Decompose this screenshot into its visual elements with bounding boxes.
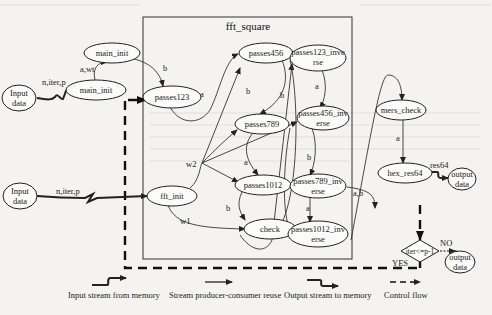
node-hex-res64: hex_res64 bbox=[378, 163, 432, 183]
svg-text:passes789: passes789 bbox=[245, 119, 279, 129]
stream-flow-diagram: fft_square n,iter,p a,wt b a b a b w2 w1… bbox=[0, 0, 492, 315]
node-fft-init: fft_init bbox=[147, 186, 197, 206]
node-passes789-inverse: passes789_inv erse bbox=[290, 174, 346, 198]
svg-text:data: data bbox=[453, 262, 467, 272]
edge-passes1012-check bbox=[239, 192, 245, 220]
svg-text:Input stream from memory: Input stream from memory bbox=[68, 290, 161, 300]
edge-main-init bbox=[94, 62, 107, 80]
node-main-init-low: main_init bbox=[66, 80, 126, 100]
legend-item-input-stream: Input stream from memory bbox=[68, 278, 161, 300]
svg-text:data: data bbox=[12, 98, 26, 108]
node-passes1012: passes1012 bbox=[235, 175, 291, 195]
edge-label: b bbox=[226, 203, 230, 213]
svg-text:main_init: main_init bbox=[80, 85, 113, 95]
svg-text:passes456: passes456 bbox=[249, 48, 283, 58]
edge-label-yes: YES bbox=[392, 258, 408, 268]
edge-label: a bbox=[396, 133, 400, 143]
edge-w2-passes789 bbox=[202, 130, 237, 163]
svg-text:Output stream to memory: Output stream to memory bbox=[284, 290, 372, 300]
svg-text:passes1012: passes1012 bbox=[244, 180, 283, 190]
svg-text:data: data bbox=[13, 196, 27, 206]
node-output-data-2: output data bbox=[445, 251, 475, 273]
edge-label: res64 bbox=[430, 160, 449, 170]
edge-label: a bbox=[306, 203, 310, 213]
edge-label-no: NO bbox=[440, 238, 452, 248]
edge-main-init-passes123 bbox=[130, 58, 163, 86]
svg-text:passes1012_inv: passes1012_inv bbox=[291, 224, 346, 234]
edge-label: a,wt bbox=[80, 64, 95, 74]
svg-text:erse: erse bbox=[311, 186, 325, 196]
node-passes456-inverse: passes456_inv erse bbox=[297, 106, 349, 130]
svg-text:erse: erse bbox=[311, 234, 325, 244]
edge-passes456-passes789 bbox=[260, 60, 286, 114]
output-stream-icon bbox=[307, 280, 338, 286]
svg-text:Input: Input bbox=[10, 88, 29, 98]
svg-text:main_init: main_init bbox=[96, 48, 129, 58]
node-passes789: passes789 bbox=[235, 114, 289, 134]
edge-w2-passes1012 bbox=[202, 163, 238, 182]
svg-text:erse: erse bbox=[316, 118, 330, 128]
svg-text:fft_init: fft_init bbox=[160, 191, 184, 201]
edge-to-mers-check bbox=[351, 75, 402, 240]
node-output-data-1: output data bbox=[448, 168, 476, 190]
node-mers-check: mers_check bbox=[376, 100, 426, 120]
svg-text:Control flow: Control flow bbox=[384, 290, 429, 300]
node-passes123: passes123 bbox=[143, 86, 201, 108]
svg-text:check: check bbox=[260, 224, 281, 234]
edge-label: a bbox=[244, 157, 248, 167]
svg-text:mers_check: mers_check bbox=[381, 105, 422, 115]
edge-label: n,iter,p bbox=[56, 186, 80, 196]
edge-label: n,iter,p bbox=[42, 77, 66, 87]
legend-item-stream-reuse: Stream producer-consumer reuse bbox=[169, 282, 281, 300]
svg-text:Input: Input bbox=[11, 186, 30, 196]
svg-text:passes789_inv: passes789_inv bbox=[293, 176, 343, 186]
edge-label: a,b bbox=[353, 188, 363, 198]
svg-text:iter<=p-1: iter<=p-1 bbox=[406, 247, 435, 256]
svg-text:passes123_inve: passes123_inve bbox=[291, 47, 345, 57]
node-passes123-inverse: passes123_inve rse bbox=[290, 45, 346, 71]
node-input-data-2: Input data bbox=[3, 183, 37, 209]
edge-label: w1 bbox=[180, 216, 190, 226]
legend-item-output-stream: Output stream to memory bbox=[284, 280, 372, 300]
svg-text:passes456_inv: passes456_inv bbox=[298, 108, 348, 118]
edge-passes789-passes1012 bbox=[246, 134, 258, 175]
output-stream-edge-1 bbox=[432, 172, 448, 178]
edge-label: b bbox=[280, 90, 284, 100]
svg-text:passes123: passes123 bbox=[155, 92, 189, 102]
node-passes1012-inverse: passes1012_inv erse bbox=[288, 221, 348, 247]
edge-label: b bbox=[307, 152, 311, 162]
edge-label: a bbox=[315, 81, 319, 91]
svg-text:hex_res64: hex_res64 bbox=[388, 168, 424, 178]
node-passes456: passes456 bbox=[239, 43, 293, 63]
input-stream-edge-2 bbox=[37, 194, 147, 202]
legend-item-control-flow: Control flow bbox=[384, 282, 429, 300]
edge-label: b bbox=[163, 63, 167, 73]
svg-text:rse: rse bbox=[313, 57, 323, 67]
legend: Input stream from memory Stream producer… bbox=[68, 278, 429, 300]
svg-text:output: output bbox=[449, 252, 471, 262]
edge-inv123-inv456 bbox=[320, 70, 325, 108]
node-main-init-top: main_init bbox=[84, 43, 140, 63]
edge-label: w2 bbox=[186, 159, 196, 169]
node-input-data-1: Input data bbox=[2, 85, 36, 111]
edge-label: b bbox=[246, 86, 250, 96]
subgraph-title: fft_square bbox=[226, 20, 271, 32]
input-stream-icon bbox=[92, 278, 126, 285]
svg-text:data: data bbox=[455, 179, 469, 189]
svg-text:Stream producer-consumer reuse: Stream producer-consumer reuse bbox=[169, 290, 281, 300]
svg-text:output: output bbox=[451, 169, 473, 179]
